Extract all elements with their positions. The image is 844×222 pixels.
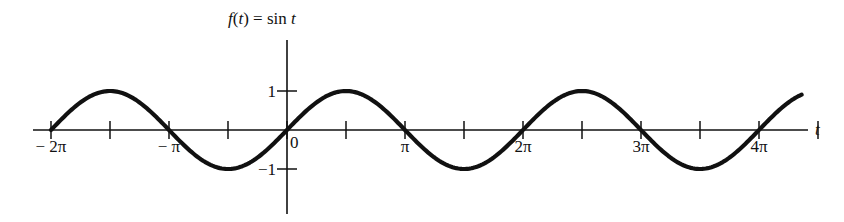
x-tick-label: 3π	[632, 137, 650, 156]
x-tick-label: 0	[290, 133, 299, 152]
chart-title: f(t) = sin t	[228, 9, 297, 28]
y-tick-label: −1	[258, 160, 276, 179]
x-tick-label: − π	[158, 137, 181, 156]
y-tick-label: 1	[268, 82, 277, 101]
x-axis-label: t	[815, 120, 821, 139]
axes	[33, 40, 818, 214]
x-tick-label: 2π	[514, 137, 532, 156]
sine-chart: − 2π− π0π2π3π4π1−1 f(t) = sin t t	[0, 0, 844, 222]
x-tick-label: 4π	[750, 137, 768, 156]
x-tick-label: − 2π	[36, 137, 67, 156]
x-tick-label: π	[401, 137, 410, 156]
